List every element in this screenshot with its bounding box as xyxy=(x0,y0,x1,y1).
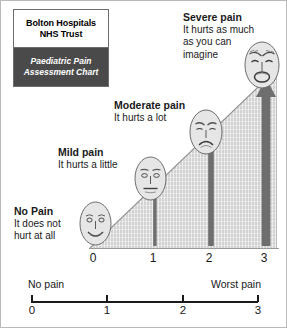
label-severe-pain-body-3: imagine xyxy=(183,49,254,62)
scale-tick-2: 2 xyxy=(175,304,191,316)
scale-line xyxy=(31,301,258,303)
logo-line-2: NHS Trust xyxy=(40,29,83,40)
frowning-face-icon xyxy=(189,109,223,155)
logo-subtitle-line-2: Assessment Chart xyxy=(24,67,99,78)
pain-assessment-chart: Bolton Hospitals NHS Trust Paediatric Pa… xyxy=(0,0,287,328)
scale-tick-mark-0 xyxy=(31,295,33,302)
chart-tick-1: 1 xyxy=(145,251,161,265)
label-mild-pain: Mild pain It hurts a little xyxy=(58,146,117,171)
chart-tick-0: 0 xyxy=(85,251,101,265)
label-mild-pain-body-1: It hurts a little xyxy=(58,159,117,172)
label-no-pain-body-1: It does not xyxy=(14,218,61,231)
scale-tick-mark-3 xyxy=(257,295,259,302)
chart-tick-3: 3 xyxy=(256,251,272,265)
smiling-face-icon xyxy=(79,201,112,246)
arrow-level-3 xyxy=(254,78,278,246)
chart-tick-2: 2 xyxy=(201,251,217,265)
label-severe-pain-heading: Severe pain xyxy=(183,11,254,24)
label-moderate-pain: Moderate pain It hurts a lot xyxy=(114,99,185,124)
label-no-pain-heading: No Pain xyxy=(14,205,61,218)
label-severe-pain-body-2: as you can xyxy=(183,36,254,49)
slightly-frowning-face-icon xyxy=(134,156,167,201)
label-severe-pain: Severe pain It hurts as much as you can … xyxy=(183,11,254,61)
label-moderate-pain-body-1: It hurts a lot xyxy=(114,112,185,125)
label-mild-pain-heading: Mild pain xyxy=(58,146,117,159)
logo-subtitle-line-1: Paediatric Pain xyxy=(31,56,92,67)
logo-trust-name: Bolton Hospitals NHS Trust xyxy=(14,10,108,48)
scale-tick-1: 1 xyxy=(99,304,115,316)
label-severe-pain-body-1: It hurts as much xyxy=(183,24,254,37)
scale-tick-mark-1 xyxy=(106,295,108,302)
scale-tick-3: 3 xyxy=(250,304,266,316)
scale-tick-0: 0 xyxy=(24,304,40,316)
label-no-pain: No Pain It does not hurt at all xyxy=(14,205,61,243)
label-no-pain-body-2: hurt at all xyxy=(14,230,61,243)
label-moderate-pain-heading: Moderate pain xyxy=(114,99,185,112)
scale-left-label: No pain xyxy=(28,278,64,290)
chart-baseline xyxy=(89,248,279,249)
scale-right-label: Worst pain xyxy=(211,278,261,290)
scale-tick-mark-2 xyxy=(182,295,184,302)
logo-line-1: Bolton Hospitals xyxy=(26,18,96,29)
